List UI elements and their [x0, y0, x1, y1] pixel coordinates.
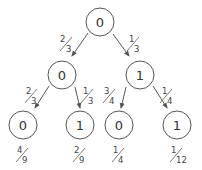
svg-text:0: 0: [19, 118, 27, 133]
svg-text:9: 9: [22, 155, 27, 165]
edge-prob-root-mid-right: 1 3: [127, 34, 139, 54]
svg-text:1: 1: [76, 118, 84, 133]
edge-prob-mid-left-leaf-2: 1 3: [81, 86, 93, 106]
node-leaf-1: 0: [9, 111, 37, 139]
svg-text:3: 3: [66, 44, 71, 54]
node-root: 0: [86, 8, 114, 36]
svg-text:0: 0: [96, 15, 104, 30]
edge-prob-mid-left-leaf-1: 2 3: [25, 86, 37, 106]
node-mid-left: 0: [48, 61, 76, 89]
edge-root-to-mid-left: [72, 33, 88, 56]
edge-mid-right-to-leaf-3: [121, 87, 126, 108]
svg-text:1: 1: [83, 86, 88, 96]
svg-text:2: 2: [60, 34, 65, 44]
svg-text:4: 4: [17, 145, 22, 155]
svg-text:4: 4: [167, 96, 172, 106]
svg-text:4: 4: [118, 155, 123, 165]
svg-text:2: 2: [74, 145, 79, 155]
leaf-prob-3: 1 4: [112, 145, 124, 165]
svg-text:1: 1: [162, 86, 167, 96]
svg-text:1: 1: [136, 68, 144, 83]
leaf-prob-2: 2 9: [73, 145, 85, 165]
svg-text:2: 2: [26, 86, 31, 96]
probability-tree-diagram: 2 3 1 3 2 3 1 3 3 4 1 4 0 0 1: [0, 0, 202, 170]
svg-text:1: 1: [113, 145, 118, 155]
edge-mid-left-to-leaf-2: [75, 87, 80, 108]
leaf-prob-1: 4 9: [16, 145, 28, 165]
node-leaf-2: 1: [66, 111, 94, 139]
edge-prob-mid-right-leaf-4: 1 4: [160, 86, 172, 106]
svg-text:3: 3: [134, 44, 139, 54]
node-leaf-4: 1: [163, 111, 191, 139]
node-mid-right: 1: [126, 61, 154, 89]
svg-text:0: 0: [58, 68, 66, 83]
svg-text:4: 4: [109, 96, 114, 106]
edge-prob-mid-right-leaf-3: 3 4: [103, 86, 115, 106]
edge-root-to-mid-right: [113, 34, 129, 56]
edge-prob-root-mid-left: 2 3: [60, 34, 72, 54]
svg-text:3: 3: [88, 96, 93, 106]
svg-text:1: 1: [171, 145, 176, 155]
svg-text:0: 0: [115, 118, 123, 133]
leaf-prob-4: 1 12: [170, 145, 187, 165]
svg-text:1: 1: [173, 118, 181, 133]
svg-text:12: 12: [176, 155, 187, 165]
svg-text:3: 3: [104, 86, 109, 96]
svg-text:1: 1: [129, 34, 134, 44]
svg-text:9: 9: [79, 155, 84, 165]
node-leaf-3: 0: [105, 111, 133, 139]
svg-text:3: 3: [31, 96, 36, 106]
